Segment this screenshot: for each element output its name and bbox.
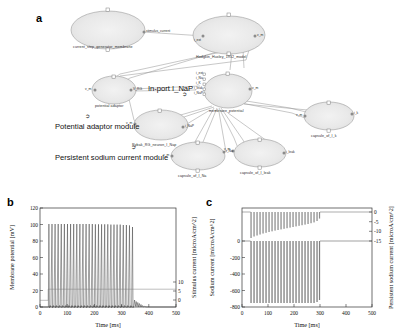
label-current-step-generator-membrane: current_step_generator_membrane [73,45,133,49]
port-square-i-k-mp[interactable] [203,83,206,86]
label-port-v-m-k: v_m [296,113,302,117]
xtick-b-400: 400 [145,310,153,316]
ytick-b-right-10: 10 [178,279,184,285]
annotation-persistent-sodium-current-module: Persistent sodium current module [55,153,168,162]
node-capsule-of-i-k[interactable] [304,102,354,130]
panel-b-xtick-labels: 0 100 200 300 400 500 [39,310,181,316]
ytick-b-right-5: 5 [178,288,181,294]
node-membrane-potential[interactable] [204,74,252,108]
ytick-c-400: -400 [230,271,240,277]
label-port-i-k-mp: i_K [196,81,201,85]
panel-c-svg: 0 -200 -400 -600 -800 0 -5 -10 -15 [200,200,401,330]
xtick-c-300: 300 [316,310,324,316]
panel-c-chart: 0 -200 -400 -600 -800 0 -5 -10 -15 [200,200,401,330]
ytick-c-600: -600 [230,288,240,294]
panel-b-ylabel-right: Stimulus current [microA/cm^2] [190,217,197,298]
port-square-bottom-ileak[interactable] [258,166,261,169]
node-capsule-of-i-leak[interactable] [234,139,286,167]
panel-b-right-ytick-labels: 0 5 10 [178,279,184,303]
label-rybak-rg-neuron-i-nap: Rybak_RG_neuron_I_Nap [132,143,176,147]
ytick-b-right-0: 0 [178,297,181,303]
panel-c-left-ytick-labels: 0 -200 -400 -600 -800 [230,238,240,310]
ytick-c-right-5: -5 [374,219,379,225]
port-dot-v-m-adaptor[interactable] [94,89,97,92]
panel-b-left-yticks [40,208,43,307]
xtick-c-0: 0 [241,310,244,316]
mouse-cursor-icon-inport: ➲ [182,90,187,97]
label-port-i-nap-mp: i_NaP [194,91,203,95]
port-square-bottom-ina[interactable] [196,169,199,172]
port-square-top-adaptor[interactable] [112,75,115,78]
xtick-b-300: 300 [118,310,126,316]
ytick-c-right-10: -10 [374,228,381,234]
panel-c-xticks [242,304,372,307]
node-current-step-generator-membrane[interactable] [71,11,145,49]
port-square-top-rybak[interactable] [158,109,161,112]
annotation-potential-adaptor-module: Potential adaptor module [55,122,139,131]
panel-b-left-ytick-labels: 0 20 40 60 80 100 120 [30,205,38,310]
port-square-i-leak-mp[interactable] [203,88,206,91]
port-square-i-na-mp[interactable] [203,78,206,81]
panel-b-ylabel-left: Membrane potential [mV] [8,225,15,290]
port-square-i-ext-mp[interactable] [203,73,206,76]
label-port-i-leak-mp: i_leak [194,86,203,90]
ytick-c-0: 0 [237,238,240,244]
port-square-top-csg[interactable] [106,8,109,11]
xtick-b-200: 200 [90,310,98,316]
port-square-bottom-ik[interactable] [327,129,330,132]
label-capsule-of-i-na: capsule_of_I_Na [178,174,206,178]
label-port-i-leak-caps: i_leak [286,150,295,154]
ytick-c-right-15: -15 [374,238,381,244]
mouse-cursor-icon-adaptor: ➲ [85,112,90,119]
port-square-top-hh[interactable] [227,13,230,16]
panel-c-axes-frame [242,208,372,307]
panel-b-right-yticks [173,282,176,300]
xtick-b-500: 500 [172,310,180,316]
label-port-stimulus-current: stimulus_current [146,29,170,33]
panel-c-series-persistent-sodium-current [242,212,372,238]
node-potential-adaptor[interactable] [92,76,136,104]
ytick-b-100: 100 [30,222,38,228]
port-dot-v-m-k[interactable] [304,115,307,118]
label-port-i-k-caps: i_k [354,111,358,115]
xtick-c-200: 200 [290,310,298,316]
panel-c-ylabel-left: Sodium current [microA/cm^2] [208,218,215,296]
node-capsule-of-i-na[interactable] [171,142,225,170]
node-rybak-rg-neuron-i-nap[interactable] [134,110,188,140]
label-port-i-ext-mp: i_ext [196,71,203,75]
label-port-v-rg: V_RG [133,87,142,91]
port-square-top-membrane[interactable] [226,72,229,75]
ytick-b-40: 40 [33,271,39,277]
ytick-c-200: -200 [230,255,240,261]
panel-c-xlabel: Time [ms] [294,321,320,328]
ytick-c-right-0: 0 [374,209,377,215]
label-capsule-of-i-leak: capsule_of_I_leak [240,171,271,175]
label-port-i-ext-hh: i_ext [194,38,201,42]
node-graph-canvas [0,0,401,192]
panel-c-left-yticks [242,241,245,307]
port-square-top-ina[interactable] [196,141,199,144]
xtick-c-400: 400 [342,310,350,316]
xtick-c-500: 500 [368,310,376,316]
port-square-top-ileak[interactable] [258,138,261,141]
panel-c-right-ytick-labels: 0 -5 -10 -15 [374,209,381,244]
panel-a-node-graph: a [0,0,401,192]
ytick-c-800: -800 [230,304,240,310]
label-port-i-na-mp: i_Na [196,76,203,80]
port-dot-i-ext-hh[interactable] [202,35,205,38]
label-hodgkin-huxley-1952-model: Hodgkin_Huxley_1952_model [196,55,246,59]
label-capsule-of-i-k: capsule_of_I_k [311,134,337,138]
panel-c-series-sodium-current [242,241,372,303]
port-dot-v-m-na[interactable] [171,155,174,158]
label-port-v-m-hh: v_m [257,33,263,37]
port-square-i-nap-mp[interactable] [203,93,206,96]
ytick-b-20: 20 [33,288,39,294]
ytick-b-80: 80 [33,238,39,244]
figure-root: a [0,0,401,330]
graph-nodes [71,11,354,170]
panel-c-xtick-labels: 0 100 200 300 400 500 [241,310,377,316]
mouse-cursor-icon-nap: ➲ [131,143,136,150]
label-port-v-m-mp: v_m [252,86,258,90]
port-square-top-ik[interactable] [327,101,330,104]
xtick-c-100: 100 [264,310,272,316]
